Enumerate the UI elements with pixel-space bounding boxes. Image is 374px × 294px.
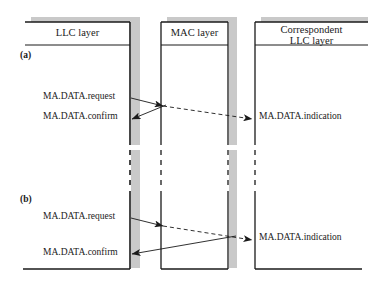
section-label-a: (a) [20,51,31,61]
arrow-b-indication [163,226,252,240]
mac-column [161,22,228,269]
llc-column [23,22,130,269]
llc-layer-title: LLC layer [25,28,130,39]
mac-shadow-right-a [229,17,237,145]
label-b-request: MA.DATA.request [43,212,115,222]
mac-shadow-right-b [229,150,237,268]
peer-llc-layer-title-line2: LLC layer [255,36,368,47]
label-b-indication: MA.DATA.indication [259,233,342,243]
arrow-b-confirm [132,236,236,254]
section-label-b: (b) [20,195,32,205]
mac-layer-title: MAC layer [161,28,228,39]
sequence-diagram-figure: LLC layer MAC layer Correspondent LLC la… [0,0,374,294]
label-a-request: MA.DATA.request [43,92,115,102]
peer-llc-layer-title-line1: Correspondent [255,25,368,36]
shadow-group [31,17,368,268]
llc-shadow-right-a [131,17,140,145]
label-a-indication: MA.DATA.indication [259,112,342,122]
label-b-confirm: MA.DATA.confirm [43,248,118,258]
arrow-a-indication [163,106,252,119]
label-a-confirm: MA.DATA.confirm [43,112,118,122]
llc-shadow-right-b [131,150,140,268]
